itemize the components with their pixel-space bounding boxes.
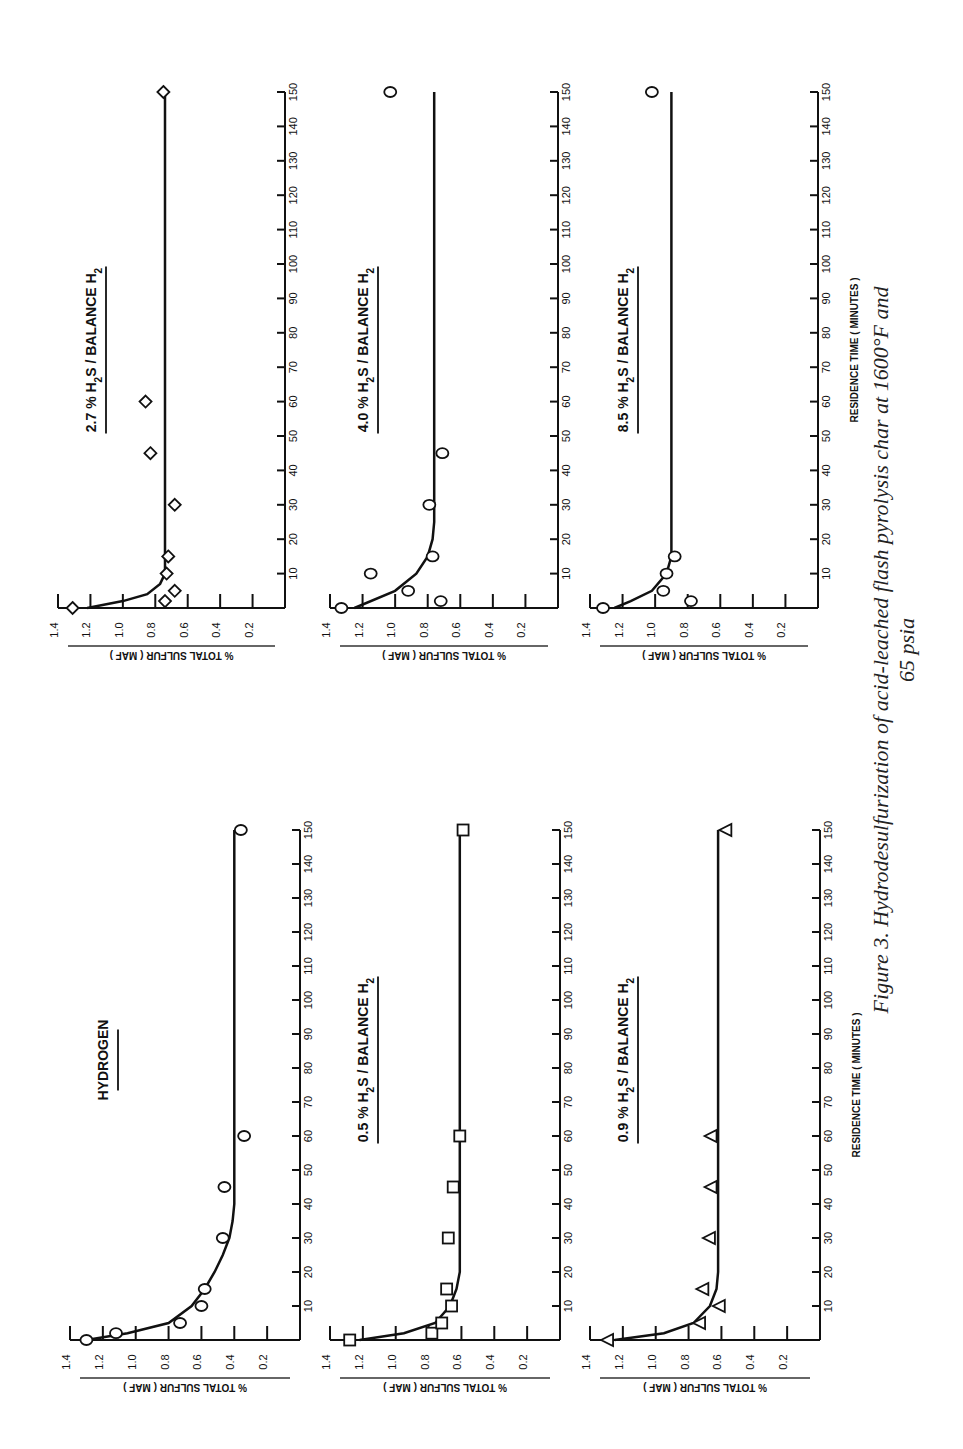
y-tick-label: 1.0	[113, 622, 125, 637]
x-tick-label: 20	[562, 1266, 574, 1278]
x-tick-label: 110	[822, 957, 834, 975]
chart-panel-top-middle: 1020304050607080901001101201301401500.20…	[320, 83, 572, 661]
y-axis-label: % TOTAL SULFUR ( MAF )	[110, 650, 234, 661]
x-tick-label: 40	[560, 464, 572, 476]
x-tick-label: 70	[302, 1096, 314, 1108]
circle-marker-icon	[646, 87, 658, 97]
figure-page: 1020304050607080901001101201301401500.20…	[0, 0, 963, 1449]
x-tick-label: 100	[562, 991, 574, 1009]
figure-plots: 1020304050607080901001101201301401500.20…	[0, 0, 963, 1449]
square-marker-icon	[446, 1301, 457, 1312]
x-tick-label: 100	[560, 255, 572, 273]
x-tick-label: 40	[820, 464, 832, 476]
triangle-marker-icon	[601, 1334, 613, 1346]
x-tick-label: 110	[820, 221, 832, 239]
x-tick-label: 20	[302, 1266, 314, 1278]
square-marker-icon	[436, 1318, 447, 1329]
x-tick-label: 10	[560, 567, 572, 579]
x-tick-label: 10	[822, 1300, 834, 1312]
y-axis-label: % TOTAL SULFUR ( MAF )	[383, 1382, 507, 1393]
x-tick-label: 80	[302, 1062, 314, 1074]
square-marker-icon	[441, 1284, 452, 1295]
circle-marker-icon	[238, 1131, 250, 1141]
y-tick-label: 1.4	[580, 1354, 592, 1369]
x-tick-label: 150	[562, 821, 574, 839]
x-tick-label: 120	[560, 186, 572, 204]
x-tick-label: 70	[287, 361, 299, 373]
x-tick-label: 120	[562, 923, 574, 941]
circle-marker-icon	[174, 1318, 186, 1328]
circle-marker-icon	[435, 596, 447, 606]
circle-marker-icon	[669, 551, 681, 561]
x-tick-label: 70	[820, 361, 832, 373]
x-tick-label: 150	[822, 821, 834, 839]
x-tick-label: 50	[820, 430, 832, 442]
y-tick-label: 0.2	[257, 1354, 269, 1369]
x-tick-label: 130	[287, 152, 299, 170]
chart-panel-bottom-middle: 1020304050607080901001101201301401500.20…	[320, 821, 574, 1393]
x-tick-label: 90	[562, 1028, 574, 1040]
circle-marker-icon	[661, 569, 673, 579]
x-tick-label: 30	[562, 1232, 574, 1244]
fit-curve	[360, 830, 460, 1340]
x-tick-label: 140	[822, 855, 834, 873]
panel-title: HYDROGEN	[95, 1020, 111, 1101]
x-tick-label: 100	[302, 991, 314, 1009]
x-tick-label: 40	[302, 1198, 314, 1210]
circle-marker-icon	[217, 1233, 229, 1243]
y-tick-label: 1.4	[580, 622, 592, 637]
panel-title: 8.5 % H2S / BALANCE H2	[615, 267, 636, 432]
y-tick-label: 1.2	[80, 622, 92, 637]
x-tick-label: 140	[562, 855, 574, 873]
diamond-marker-icon	[169, 585, 181, 597]
chart-panel-top-left: 1020304050607080901001101201301401500.20…	[48, 83, 299, 661]
x-tick-label: 50	[560, 430, 572, 442]
circle-marker-icon	[685, 596, 697, 606]
x-tick-label: 90	[820, 292, 832, 304]
circle-marker-icon	[402, 586, 414, 596]
x-tick-label: 90	[287, 292, 299, 304]
x-tick-label: 150	[820, 83, 832, 101]
y-tick-label: 0.8	[159, 1354, 171, 1369]
x-tick-label: 130	[560, 152, 572, 170]
x-tick-label: 10	[287, 567, 299, 579]
y-tick-label: 1.4	[60, 1354, 72, 1369]
y-tick-label: 1.4	[48, 622, 60, 637]
x-tick-label: 50	[822, 1164, 834, 1176]
x-tick-label: 60	[822, 1130, 834, 1142]
x-tick-label: 140	[287, 117, 299, 135]
y-tick-label: 1.2	[93, 1354, 105, 1369]
triangle-marker-icon	[705, 1130, 717, 1142]
x-tick-label: 150	[287, 83, 299, 101]
y-axis-label: % TOTAL SULFUR ( MAF )	[643, 1382, 767, 1393]
x-tick-label: 130	[302, 889, 314, 907]
diamond-marker-icon	[144, 447, 156, 459]
x-tick-label: 80	[820, 327, 832, 339]
y-tick-label: 0.8	[679, 1354, 691, 1369]
square-marker-icon	[443, 1233, 454, 1244]
x-tick-label: 10	[820, 567, 832, 579]
x-tick-label: 150	[302, 821, 314, 839]
y-tick-label: 1.0	[646, 1354, 658, 1369]
circle-marker-icon	[199, 1284, 211, 1294]
chart-panel-bottom-left: 1020304050607080901001101201301401500.20…	[60, 821, 314, 1393]
x-tick-label: 110	[560, 221, 572, 239]
circle-marker-icon	[80, 1335, 92, 1345]
diamond-marker-icon	[67, 602, 79, 614]
y-tick-label: 0.8	[678, 622, 690, 637]
y-tick-label: 0.4	[743, 622, 755, 637]
triangle-marker-icon	[705, 1181, 717, 1193]
panel-title: 2.7 % H2S / BALANCE H2	[83, 267, 104, 432]
y-tick-label: 1.2	[613, 622, 625, 637]
caption-line-2: 65 psia	[894, 200, 920, 1100]
square-marker-icon	[448, 1182, 459, 1193]
circle-marker-icon	[218, 1182, 230, 1192]
caption-line-1: Figure 3. Hydrodesulfurization of acid-l…	[868, 287, 893, 1014]
y-tick-label: 1.2	[353, 622, 365, 637]
y-tick-label: 1.0	[645, 622, 657, 637]
x-tick-label: 110	[302, 957, 314, 975]
x-tick-label: 120	[287, 186, 299, 204]
y-tick-label: 0.8	[145, 622, 157, 637]
y-tick-label: 1.2	[613, 1354, 625, 1369]
y-tick-label: 0.4	[210, 622, 222, 637]
